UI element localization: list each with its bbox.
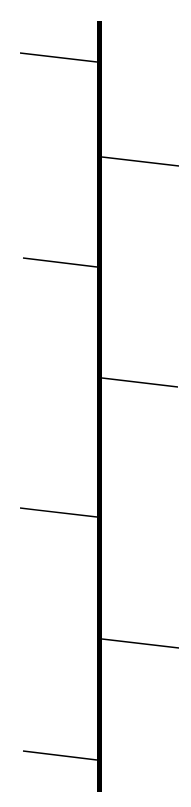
background (0, 0, 191, 807)
branch-diagram (0, 0, 191, 807)
